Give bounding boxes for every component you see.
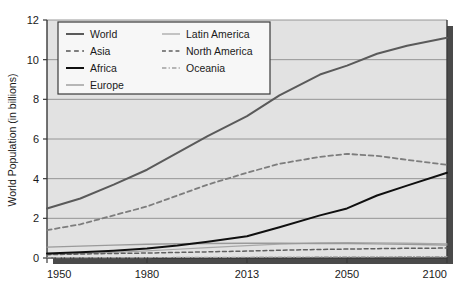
legend-label: Latin America [186,28,250,40]
x-tick-label: 1950 [47,268,71,280]
chart-legend: WorldLatin AmericaAsiaNorth AmericaAfric… [58,22,270,94]
legend-label: World [90,28,117,40]
y-axis-title: World Population (in billions) [6,74,18,207]
chart-canvas: 024681012 19501980201320502100 World Pop… [0,0,470,290]
x-tick-label: 2050 [335,268,359,280]
legend-label: Africa [90,62,117,74]
population-line-chart: 024681012 19501980201320502100 World Pop… [0,0,470,290]
x-tick-label: 1980 [135,268,159,280]
x-tick-label: 2013 [235,268,259,280]
y-tick-label: 2 [33,212,39,224]
x-tick-label: 2100 [423,268,447,280]
y-tick-label: 4 [33,173,39,185]
y-tick-label: 6 [33,133,39,145]
y-tick-label: 10 [27,54,39,66]
legend-label: Oceania [186,62,225,74]
legend-label: North America [186,45,253,57]
y-tick-label: 8 [33,93,39,105]
y-tick-label: 12 [27,14,39,26]
legend-label: Asia [90,45,111,57]
legend-label: Europe [90,79,124,91]
y-tick-label: 0 [33,252,39,264]
